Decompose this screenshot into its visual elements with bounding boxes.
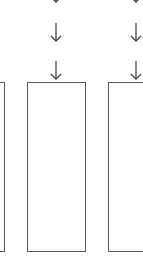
down-arrow-icon	[130, 0, 142, 4]
down-arrow-icon	[130, 23, 142, 43]
right-box	[108, 82, 143, 252]
down-arrow-icon	[50, 23, 62, 43]
left-box	[0, 82, 5, 252]
down-arrow-icon	[50, 0, 62, 4]
down-arrow-icon	[50, 61, 62, 81]
middle-box	[27, 82, 86, 252]
down-arrow-icon	[130, 61, 142, 81]
